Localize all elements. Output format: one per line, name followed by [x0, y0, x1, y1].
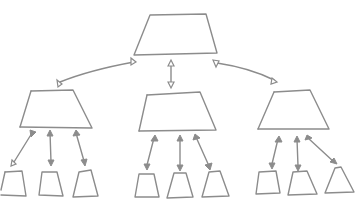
leaf-nodes — [1, 167, 354, 198]
root-node — [134, 14, 217, 55]
left-child-connectors — [11, 130, 87, 166]
diagram-svg — [0, 0, 359, 204]
root-to-left-connector — [57, 58, 136, 87]
middle-node-right — [258, 90, 329, 129]
middle-node-left — [20, 90, 92, 128]
root-to-center-connector — [168, 60, 174, 88]
right-child-connectors — [269, 135, 337, 171]
center-child-connectors — [144, 134, 212, 171]
root-to-right-connector — [213, 60, 277, 84]
middle-node-center — [139, 92, 216, 131]
hierarchy-diagram — [0, 0, 359, 204]
